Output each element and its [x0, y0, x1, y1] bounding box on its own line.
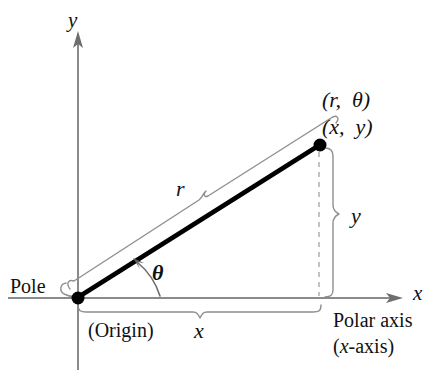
- point-rect-label: (x, y): [322, 116, 373, 138]
- pole-label: Pole: [10, 276, 46, 296]
- y-component-label: y: [351, 205, 361, 227]
- radius-label: r: [176, 178, 185, 200]
- angle-label: θ: [152, 262, 163, 284]
- x-component-brace: [78, 305, 321, 318]
- radius-segment: [80, 146, 318, 296]
- x-component-label: x: [194, 320, 204, 342]
- x-axis-label: x: [413, 283, 422, 304]
- polar-axis-alt-label: (x-axis): [333, 336, 394, 356]
- point-dot-icon: [314, 139, 327, 152]
- y-axis-label: y: [68, 10, 77, 31]
- origin-dot-icon: [72, 292, 85, 305]
- radius-brace: [68, 116, 338, 289]
- origin-label: (Origin): [88, 320, 154, 340]
- point-polar-label: (r, θ): [322, 89, 370, 111]
- polar-coordinate-diagram: y x (r, θ) (x, y) r θ Pole (Origin) x y …: [0, 0, 437, 380]
- y-component-brace: [325, 148, 339, 297]
- polar-axis-label: Polar axis: [333, 310, 412, 330]
